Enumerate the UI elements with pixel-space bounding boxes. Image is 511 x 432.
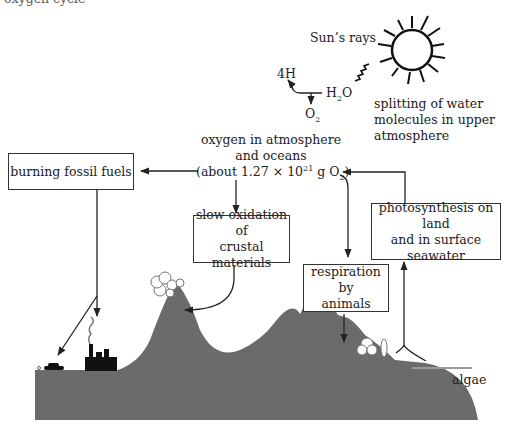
photosynthesis-line1: photosynthesis on land [372, 200, 500, 232]
slow-oxidation-box: slow oxidation of crustal materials [193, 215, 290, 263]
oxidation-line2: crustal materials [194, 239, 289, 271]
product-4H: 4H [277, 66, 296, 82]
respiration-line2: animals [321, 296, 370, 312]
h2o-h: H [326, 85, 337, 100]
fossil-label: burning fossil fuels [10, 164, 132, 180]
reservoir-line1: oxygen in atmosphere [196, 132, 346, 148]
wavy-ray [355, 64, 369, 81]
factory-icon [85, 317, 117, 371]
sun-icon [378, 16, 445, 84]
car-icon [38, 363, 65, 370]
reservoir-line3: (about 1.27 × 1021 g O2) [196, 164, 346, 180]
sun-label: Sun’s rays [310, 30, 376, 46]
arrow-reservoir-to-respiration [340, 175, 348, 257]
photosynthesis-line2: and in surface [391, 232, 481, 248]
h2o-o: O [342, 85, 352, 100]
product-o2: O2 [305, 106, 320, 122]
arrow-oxidation-to-volcano [185, 265, 234, 310]
reservoir-amount-mid: g O [313, 164, 339, 179]
caption-line1: splitting of water [374, 96, 495, 112]
photosynthesis-box: photosynthesis on land and in surface se… [371, 203, 501, 260]
o2-o: O [305, 106, 315, 121]
reactant-h2o: H2O [326, 85, 352, 101]
caption-line2: molecules in upper [374, 112, 495, 128]
respiration-line1: respiration by [304, 264, 388, 296]
o2-sub: 2 [315, 115, 320, 124]
burning-fossil-fuels-box: burning fossil fuels [8, 153, 134, 190]
algae-fork [396, 345, 426, 361]
header-fragment: oxygen cycle [4, 0, 86, 7]
photosynthesis-line3: seawater [407, 248, 465, 264]
water-splitting-caption: splitting of water molecules in upper at… [374, 96, 495, 144]
reservoir-amount-prefix: (about 1.27 × 10 [196, 164, 303, 179]
algae-label: algae [452, 372, 486, 388]
reservoir-line2: and oceans [196, 148, 346, 164]
reservoir-amount-exp: 21 [303, 164, 313, 173]
oxidation-line1: slow oxidation of [194, 207, 289, 239]
oxygen-reservoir: oxygen in atmosphere and oceans (about 1… [196, 132, 346, 180]
respiration-box: respiration by animals [303, 264, 389, 312]
reservoir-amount-suffix: ) [345, 164, 350, 179]
caption-line3: atmosphere [374, 128, 495, 144]
